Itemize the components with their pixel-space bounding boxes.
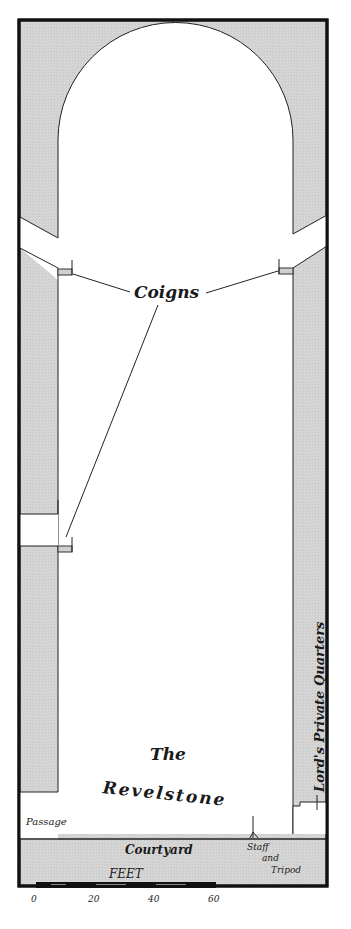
tripod-label: Tripod xyxy=(271,865,301,875)
coigns-label: Coigns xyxy=(134,282,200,302)
staff-label: Staff xyxy=(247,842,270,852)
passage-label: Passage xyxy=(25,816,67,827)
lords-quarters-room xyxy=(293,802,327,834)
scale-tick-60: 60 xyxy=(208,894,220,904)
lords-quarters-label: Lord's Private Quarters xyxy=(312,621,327,793)
and-label: and xyxy=(262,853,279,863)
courtyard-label: Courtyard xyxy=(125,843,193,857)
main-hall-floor xyxy=(58,22,293,834)
scale-tick-40: 40 xyxy=(147,894,160,904)
scale-tick-20: 20 xyxy=(87,894,100,904)
lower-passage-left xyxy=(20,514,58,546)
revelstone-floor-plan: Coigns Lord's Private Quarters The Revel… xyxy=(0,0,351,929)
scale-unit-label: FEET xyxy=(108,867,144,881)
title-the: The xyxy=(150,744,186,764)
scale-tick-0: 0 xyxy=(31,894,37,904)
